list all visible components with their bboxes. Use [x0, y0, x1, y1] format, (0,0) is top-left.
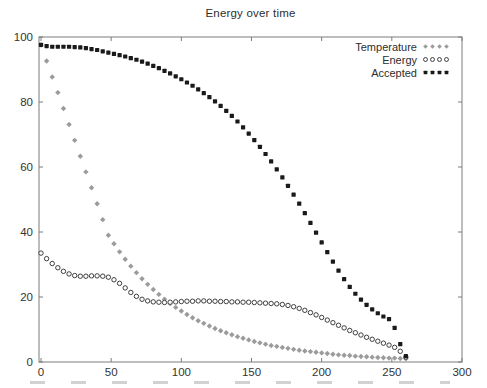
filled-square-marker [140, 60, 144, 64]
diamond-marker [94, 201, 99, 206]
diamond-marker [308, 349, 313, 354]
open-circle-marker [168, 300, 172, 304]
open-circle-marker [151, 300, 155, 304]
x-tick-label: 150 [242, 366, 261, 378]
filled-square-marker [84, 46, 88, 50]
open-circle-marker [235, 300, 239, 304]
open-circle-marker [424, 58, 428, 62]
filled-square-marker [431, 71, 435, 75]
open-circle-marker [129, 290, 133, 294]
open-circle-marker [190, 299, 194, 303]
filled-square-marker [370, 307, 374, 311]
diamond-marker [302, 348, 307, 353]
diamond-marker [55, 90, 60, 95]
open-circle-marker [67, 272, 71, 276]
open-circle-marker [39, 251, 43, 255]
diamond-marker [423, 44, 428, 49]
open-circle-marker [213, 299, 217, 303]
diamond-marker [297, 348, 302, 353]
plot-area: 050100150200250300020406080100Temperatur… [0, 0, 487, 388]
diamond-marker [430, 44, 435, 49]
filled-square-marker [398, 342, 402, 346]
filled-square-marker [56, 45, 60, 49]
diamond-marker [212, 326, 217, 331]
diamond-marker [179, 308, 184, 313]
open-circle-marker [438, 58, 442, 62]
diamond-marker [369, 354, 374, 359]
filled-square-marker [393, 326, 397, 330]
filled-square-marker [424, 71, 428, 75]
diamond-marker [341, 352, 346, 357]
open-circle-marker [431, 58, 435, 62]
open-circle-marker [314, 313, 318, 317]
filled-square-marker [146, 62, 150, 66]
open-circle-marker [224, 299, 228, 303]
diamond-marker [195, 318, 200, 323]
open-circle-marker [286, 303, 290, 307]
filled-square-marker [438, 71, 442, 75]
diamond-marker [111, 241, 116, 246]
diamond-marker [156, 292, 161, 297]
open-circle-marker [50, 261, 54, 265]
open-circle-marker [297, 306, 301, 310]
filled-square-marker [280, 175, 284, 179]
open-circle-marker [162, 300, 166, 304]
filled-square-marker [331, 259, 335, 263]
y-tick-label: 40 [20, 226, 33, 238]
open-circle-marker [101, 274, 105, 278]
filled-square-marker [387, 317, 391, 321]
diamond-marker [201, 321, 206, 326]
open-circle-marker [241, 300, 245, 304]
filled-square-marker [196, 87, 200, 91]
filled-square-marker [73, 45, 77, 49]
diamond-marker [44, 58, 49, 63]
diamond-marker [224, 330, 229, 335]
filled-square-marker [275, 167, 279, 171]
open-circle-marker [207, 299, 211, 303]
figure: Energy over time 05010015020025030002040… [0, 0, 487, 388]
filled-square-marker [185, 80, 189, 84]
open-circle-marker [359, 333, 363, 337]
diamond-marker [364, 354, 369, 359]
open-circle-marker [44, 256, 48, 260]
filled-square-marker [157, 66, 161, 70]
filled-square-marker [364, 303, 368, 307]
open-circle-marker [387, 343, 391, 347]
filled-square-marker [308, 221, 312, 225]
diamond-marker [257, 340, 262, 345]
diamond-marker [437, 44, 442, 49]
open-circle-marker [280, 302, 284, 306]
diamond-marker [229, 332, 234, 337]
diamond-marker [66, 122, 71, 127]
diamond-marker [398, 356, 403, 361]
diamond-marker [190, 315, 195, 320]
filled-square-marker [247, 131, 251, 135]
filled-square-marker [101, 49, 105, 53]
diamond-marker [78, 154, 83, 159]
filled-square-marker [202, 91, 206, 95]
diamond-marker [280, 345, 285, 350]
filled-square-marker [269, 159, 273, 163]
open-circle-marker [353, 331, 357, 335]
x-tick-label: 50 [105, 366, 118, 378]
filled-square-marker [263, 152, 267, 156]
open-circle-marker [252, 300, 256, 304]
filled-square-marker [230, 114, 234, 118]
filled-square-marker [112, 52, 116, 56]
filled-square-marker [50, 45, 54, 49]
open-circle-marker [348, 328, 352, 332]
diamond-marker [246, 337, 251, 342]
open-circle-marker [134, 294, 138, 298]
y-tick-label: 100 [14, 31, 33, 43]
open-circle-marker [179, 299, 183, 303]
filled-square-marker [129, 56, 133, 60]
filled-square-marker [241, 125, 245, 129]
x-tick-label: 250 [382, 366, 401, 378]
diamond-marker [235, 334, 240, 339]
filled-square-marker [404, 354, 408, 358]
x-tick-label: 0 [38, 366, 44, 378]
diamond-marker [173, 305, 178, 310]
filled-square-marker [207, 95, 211, 99]
diamond-marker [336, 352, 341, 357]
diamond-marker [145, 282, 150, 287]
